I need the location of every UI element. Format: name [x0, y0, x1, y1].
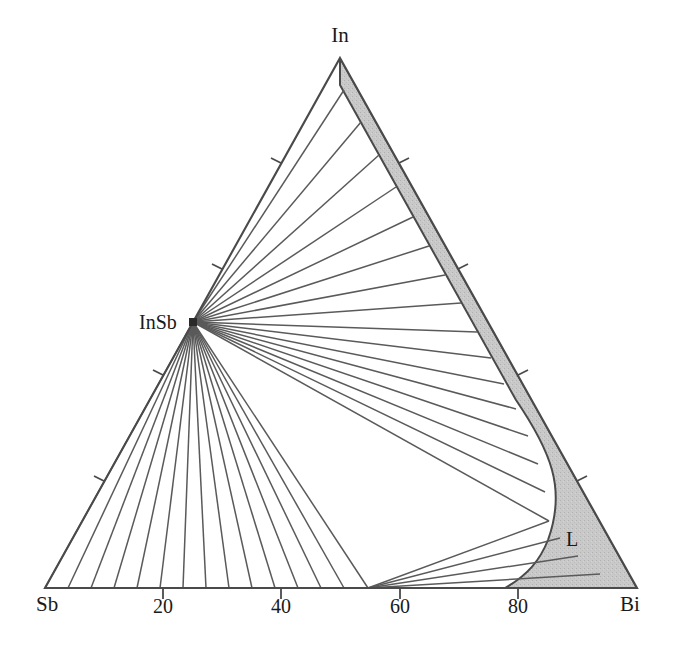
- phase-label-insb: InSb: [139, 311, 177, 333]
- triangle-outline: [45, 58, 637, 588]
- tick-label-40: 40: [271, 595, 291, 617]
- right-axis-ticks: [399, 158, 587, 481]
- tick-label-60: 60: [390, 595, 410, 617]
- vertex-label-sb: Sb: [36, 592, 58, 616]
- tie-lines-insb-to-sbbi-edge: [45, 322, 344, 588]
- bottom-axis-ticks: [163, 588, 518, 599]
- tick-label-20: 20: [153, 595, 173, 617]
- insb-node-marker: [189, 318, 197, 326]
- vertex-label-in: In: [331, 23, 349, 47]
- tick-label-80: 80: [508, 595, 528, 617]
- vertex-label-bi: Bi: [620, 592, 640, 616]
- phase-diagram-canvas: In Sb Bi 20 40 60 80 InSb L: [0, 0, 677, 657]
- phase-label-liquid: L: [566, 528, 578, 550]
- left-axis-ticks: [94, 158, 281, 481]
- ternary-phase-diagram: In Sb Bi 20 40 60 80 InSb L: [0, 0, 677, 657]
